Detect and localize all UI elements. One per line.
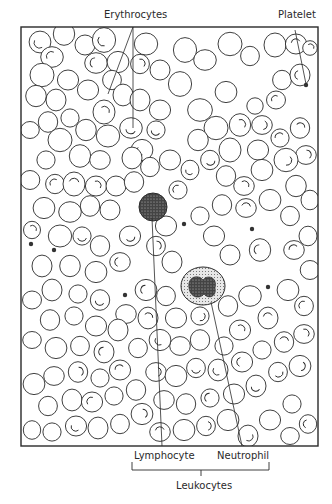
erythrocyte (274, 332, 293, 353)
erythrocyte (247, 98, 263, 114)
erythrocyte (290, 64, 310, 86)
erythrocyte (283, 395, 301, 413)
erythrocyte (46, 174, 65, 193)
erythrocyte (63, 172, 85, 196)
erythrocyte (33, 197, 55, 218)
platelet (266, 285, 270, 289)
erythrocyte (37, 151, 55, 169)
erythrocyte (129, 338, 148, 357)
erythrocyte (85, 261, 107, 282)
erythrocyte (75, 35, 95, 55)
erythrocyte (90, 236, 109, 257)
erythrocyte (147, 121, 165, 139)
erythrocyte (215, 81, 237, 102)
erythrocyte (60, 255, 81, 276)
erythrocyte (247, 140, 268, 160)
erythrocyte (119, 226, 140, 246)
erythrocyte (197, 416, 216, 435)
erythrocyte (69, 145, 90, 168)
erythrocyte (107, 51, 129, 72)
erythrocyte (150, 423, 171, 442)
erythrocyte (39, 396, 58, 415)
erythrocyte (73, 227, 91, 245)
leukocytes-label: Leukocytes (176, 480, 232, 491)
erythrocyte (30, 63, 54, 86)
erythrocyte (65, 307, 83, 325)
erythrocyte (65, 416, 86, 436)
erythrocyte (201, 150, 220, 169)
erythrocyte (289, 355, 311, 376)
erythrocyte (187, 358, 206, 377)
erythrocyte (23, 332, 42, 349)
erythrocyte (106, 176, 126, 196)
erythrocyte (216, 166, 235, 187)
platelet (250, 227, 254, 231)
erythrocyte (57, 70, 78, 90)
erythrocyte (134, 33, 157, 55)
erythrocyte (238, 425, 258, 447)
blood-smear-drawing (0, 0, 332, 504)
erythrocyte (124, 172, 143, 193)
erythrocyte (281, 206, 300, 225)
erythrocyte (267, 91, 286, 109)
erythrocyte (215, 337, 233, 355)
erythrocyte (135, 279, 157, 300)
erythrocyte (21, 122, 40, 139)
erythrocyte (154, 391, 175, 410)
erythrocyte (91, 369, 109, 387)
erythrocyte (229, 320, 250, 340)
erythrocyte (96, 125, 119, 147)
erythrocyte (201, 389, 219, 407)
erythrocyte (93, 100, 115, 124)
erythrocyte (191, 207, 209, 225)
erythrocyte (203, 226, 224, 246)
lymphocyte-label: Lymphocyte (134, 450, 195, 461)
erythrocyte (40, 310, 59, 331)
erythrocyte (146, 363, 167, 382)
platelet-label: Platelet (278, 9, 316, 20)
erythrocyte (68, 362, 87, 383)
erythrocyte (62, 389, 82, 411)
erythrocyte (173, 38, 196, 63)
erythrocyte (284, 241, 305, 260)
erythrocyte (69, 285, 87, 303)
erythrocyte (71, 336, 90, 355)
erythrocyte (303, 41, 318, 56)
erythrocyte (258, 307, 278, 329)
erythrocyte (53, 23, 74, 46)
erythrocyte (165, 308, 186, 328)
erythrocyte (188, 129, 209, 150)
erythrocyte (23, 291, 42, 309)
erythrocyte (126, 380, 145, 401)
platelet (182, 222, 186, 226)
erythrocyte (90, 290, 109, 311)
erythrocyte (32, 255, 52, 277)
erythrocyte (170, 337, 191, 356)
erythrocyte (43, 423, 61, 441)
erythrocyte (44, 367, 65, 386)
erythrocyte (105, 387, 123, 405)
erythrocyte (59, 202, 82, 223)
erythrocyte (212, 195, 231, 216)
erythrocyte (246, 375, 266, 397)
erythrocyte (85, 176, 106, 196)
erythrocyte (299, 415, 316, 434)
erythrocyte (251, 159, 273, 180)
erythrocyte (188, 99, 213, 122)
erythrocyte (110, 253, 131, 272)
leukocytes-bracket (132, 462, 269, 476)
erythrocyte (281, 428, 300, 445)
erythrocyte (77, 80, 98, 100)
erythrocyte (80, 196, 99, 217)
erythrocyte (249, 239, 270, 262)
erythrocyte (229, 114, 250, 137)
erythrocyte (234, 177, 255, 196)
erythrocyte (253, 341, 271, 359)
erythrocyte (194, 50, 217, 71)
erythrocyte (85, 53, 108, 74)
erythrocyte (220, 245, 240, 265)
lymphocyte (139, 193, 167, 221)
erythrocyte (271, 129, 289, 147)
erythrocyte (218, 296, 237, 317)
erythrocyte (48, 225, 71, 247)
